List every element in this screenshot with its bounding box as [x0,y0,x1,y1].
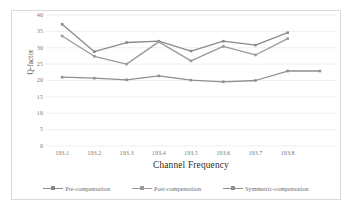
data-point-marker [222,81,225,84]
data-point-marker [125,63,128,66]
legend-item[interactable]: Pre-compensation [43,185,110,192]
x-axis-tick-labels: 193.1193.2193.3193.4193.5193.6193.7193.8 [46,149,336,159]
legend-label: Pre-compensation [65,185,110,192]
plot-svg [46,15,336,146]
series-2 [61,35,289,66]
y-axis-tick-label: 10 [27,110,43,116]
x-axis-tick-label: 193.6 [206,149,240,156]
data-point-marker [125,79,128,82]
x-axis-title: Channel Frequency [46,160,336,170]
y-axis-tick-label: 0 [27,143,43,149]
x-axis-tick-label: 193.8 [271,149,305,156]
data-point-marker [61,76,64,79]
y-axis-tick-label: 25 [27,61,43,67]
legend-marker-icon [223,185,243,192]
legend-item[interactable]: Symmetric-compensation [223,185,309,192]
data-point-marker [61,35,64,38]
data-point-marker [190,60,193,63]
data-point-marker [254,44,257,47]
x-axis-tick-label: 193.4 [142,149,176,156]
data-point-marker [286,70,289,73]
series-line [62,36,288,64]
chart-legend: Pre-compensationPost-compensationSymmetr… [20,182,332,194]
data-point-marker [190,79,193,82]
chart-container: Q-factor 0510152025303540 193.1193.2193.… [0,0,355,215]
legend-label: Post-compensation [154,185,201,192]
data-point-marker [93,50,96,53]
y-axis-tick-label: 20 [27,77,43,83]
x-axis-tick-label: 193.5 [174,149,208,156]
series-3 [61,70,321,83]
data-point-marker [254,79,257,82]
y-axis-tick-label: 15 [27,94,43,100]
data-point-marker [61,23,64,26]
data-point-marker [319,70,322,73]
legend-item[interactable]: Post-compensation [132,185,201,192]
data-point-marker [254,54,257,57]
data-point-marker [222,40,225,43]
y-axis-tick-labels: 0510152025303540 [26,15,43,146]
series-1 [61,23,289,53]
legend-marker-icon [43,185,63,192]
data-point-marker [125,41,128,44]
series-layer [61,23,321,83]
y-axis-tick-label: 35 [27,28,43,34]
data-point-marker [93,77,96,80]
legend-marker-icon [132,185,152,192]
data-point-marker [190,50,193,53]
y-axis-tick-label: 40 [27,12,43,18]
data-point-marker [286,37,289,40]
y-axis-tick-label: 5 [27,126,43,132]
x-axis-tick-label: 193.3 [110,149,144,156]
data-point-marker [157,75,160,78]
x-axis-tick-label: 193.1 [45,149,79,156]
data-point-marker [93,55,96,58]
legend-label: Symmetric-compensation [245,185,309,192]
data-point-marker [286,31,289,34]
data-point-marker [222,45,225,48]
data-point-marker [157,41,160,44]
y-axis-tick-label: 30 [27,45,43,51]
plot-area [46,15,336,146]
x-axis-tick-label: 193.2 [77,149,111,156]
x-axis-tick-label: 193.7 [238,149,272,156]
